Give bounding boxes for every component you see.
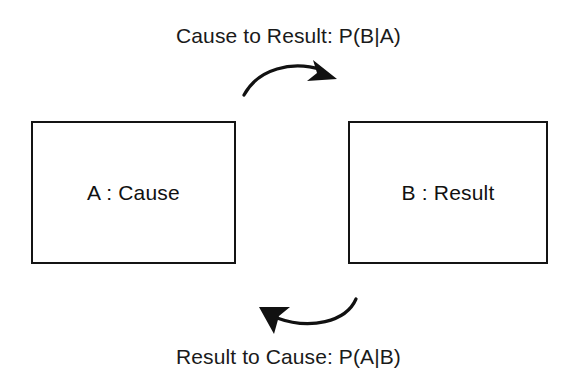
curved-arrow-right-icon [244,60,337,95]
bottom-caption-result-to-cause: Result to Cause: P(A|B) [0,346,577,367]
diagram-canvas: Cause to Result: P(B|A) A : Cause B : Re… [0,0,577,384]
node-box-result[interactable]: B : Result [348,121,548,264]
node-box-cause[interactable]: A : Cause [31,121,236,264]
curved-arrow-left-icon [259,299,356,334]
node-label-result: B : Result [401,182,494,203]
top-caption-cause-to-result: Cause to Result: P(B|A) [0,25,577,46]
node-label-cause: A : Cause [87,182,180,203]
